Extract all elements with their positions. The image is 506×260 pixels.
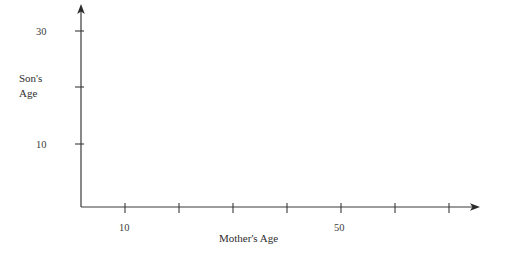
chart-screenshot: 30 10 10 50 Son'sAge Mother's Age bbox=[0, 0, 506, 260]
y-axis-tick-label-10: 10 bbox=[36, 138, 47, 152]
y-axis-title-line2: Age bbox=[19, 86, 42, 101]
x-axis-title: Mother's Age bbox=[219, 231, 278, 246]
y-axis-title: Son'sAge bbox=[19, 71, 42, 101]
y-axis-title-line1: Son's bbox=[19, 72, 42, 84]
x-axis-tick-label-50: 50 bbox=[334, 221, 345, 235]
plot-area bbox=[0, 0, 506, 260]
y-axis-tick-label-30: 30 bbox=[36, 25, 47, 39]
x-axis-tick-label-10: 10 bbox=[119, 221, 130, 235]
